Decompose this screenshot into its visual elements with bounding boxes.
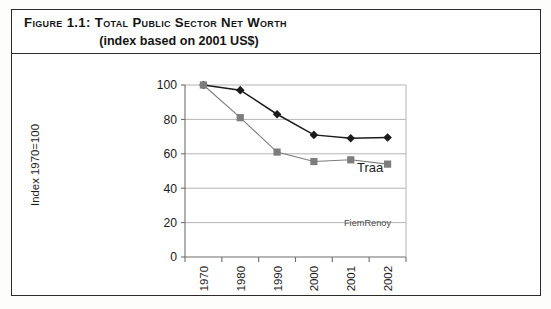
y-axis-tick-label: 100 <box>157 78 178 92</box>
data-point <box>346 134 355 143</box>
chart-plot-container: Index 1970=100 020406080100 197019801990… <box>12 54 540 295</box>
figure-caption-title: Figure 1.1: Total Public Sector Net Wort… <box>12 14 540 32</box>
series-line-traa <box>203 85 387 138</box>
figure-caption: Figure 1.1: Total Public Sector Net Wort… <box>12 10 540 54</box>
data-point <box>310 158 317 165</box>
x-axis-tick-label: 2002 <box>382 266 394 291</box>
line-chart: Index 1970=100 020406080100 197019801990… <box>12 54 539 295</box>
data-point <box>347 156 354 163</box>
data-point <box>383 133 392 142</box>
figure-caption-subtitle: (index based on 2001 US$) <box>12 32 540 50</box>
y-axis-tick-label: 20 <box>163 216 177 230</box>
x-axis-tick-label: 1990 <box>272 266 284 291</box>
gridlines <box>185 85 406 223</box>
data-point <box>236 86 245 95</box>
x-axis-tick-labels: 197019801990200020012002 <box>198 266 394 291</box>
series-label-fiemrenoy: FiemRenoy <box>344 218 391 228</box>
y-axis-title: Index 1970=100 <box>29 124 41 206</box>
series-lines <box>203 85 387 164</box>
x-axis-tick-label: 1980 <box>235 266 247 291</box>
x-axis-tick-label: 1970 <box>198 266 210 291</box>
figure-frame: Figure 1.1: Total Public Sector Net Wort… <box>11 9 541 296</box>
data-point <box>200 81 207 88</box>
data-point <box>273 148 280 155</box>
y-axis-tick-label: 80 <box>163 113 177 127</box>
figure-root: Figure 1.1: Total Public Sector Net Wort… <box>0 0 551 309</box>
series-label-traa: Traa <box>357 160 384 175</box>
data-point <box>237 114 244 121</box>
y-axis-tick-label: 0 <box>170 250 177 264</box>
x-axis-tick-label: 2000 <box>308 266 320 291</box>
y-axis-ticks <box>181 85 185 257</box>
y-axis-tick-label: 40 <box>163 182 177 196</box>
data-point <box>310 131 319 140</box>
x-axis-ticks <box>185 257 406 262</box>
y-axis-tick-label: 60 <box>163 147 177 161</box>
x-axis-tick-label: 2001 <box>345 266 357 291</box>
data-point <box>384 161 391 168</box>
y-axis-tick-labels: 020406080100 <box>157 78 178 264</box>
data-point <box>273 110 282 119</box>
